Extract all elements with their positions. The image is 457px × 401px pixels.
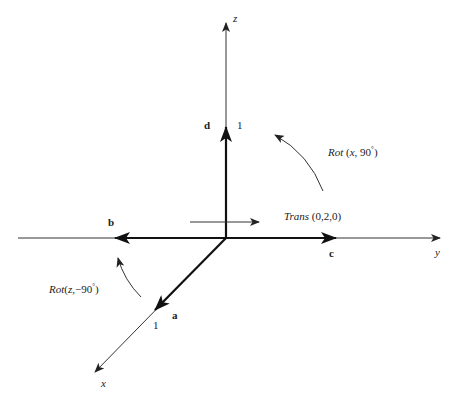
rotation-x-angle: , 90 [355,146,372,158]
rotation-z-arrow [118,258,141,297]
z-axis-label: z [232,12,238,24]
vector-a-arrow [155,238,226,310]
rotation-z-angle: ,−90 [72,283,92,295]
translation-args: (0,2,0) [309,210,341,223]
y-axis-label: y [434,246,440,258]
rotation-z-name: Rot [48,283,65,295]
rotation-x-arrow [275,135,323,191]
coordinate-frame-diagram: z y x d 1 b c a 1 Trans (0,2,0) Rot (x, … [0,0,457,401]
rotation-z-close: ) [95,283,99,296]
vector-d-unit-label: 1 [237,119,243,131]
rotation-x-close: ) [374,146,378,159]
translation-name: Trans [284,210,309,222]
vector-a-label: a [172,309,178,321]
x-axis-label: x [100,377,106,389]
rotation-x-label: Rot (x, 90°) [327,145,378,159]
rotation-x-name: Rot [327,146,344,158]
rotation-z-label: Rot(z,−90°) [48,282,99,296]
vector-a-unit-label: 1 [153,319,159,331]
translation-label: Trans (0,2,0) [284,210,341,223]
vector-b-label: b [108,216,114,228]
vector-c-label: c [329,247,334,259]
vector-d-label: d [204,119,210,131]
